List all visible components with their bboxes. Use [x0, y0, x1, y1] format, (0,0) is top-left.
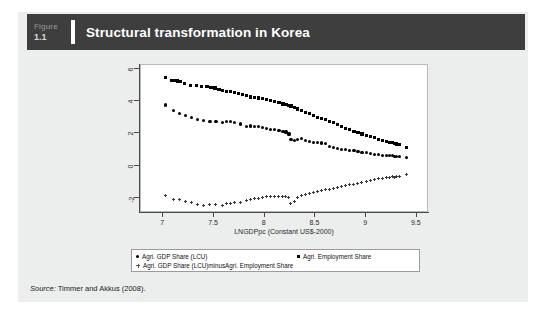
data-point	[348, 149, 351, 152]
x-tick-mark	[213, 213, 214, 217]
y-tick-label: -2	[128, 196, 135, 202]
figure-number: 1.1	[34, 32, 47, 43]
data-point	[356, 150, 359, 153]
data-point	[213, 86, 216, 89]
y-tick-label: 6	[128, 68, 135, 72]
data-point	[324, 118, 327, 121]
data-point	[195, 84, 198, 87]
plus-marker-icon	[136, 264, 140, 268]
data-point	[202, 119, 205, 122]
data-point	[381, 154, 384, 157]
data-point	[277, 129, 280, 132]
data-point	[261, 196, 264, 199]
legend-label: Agri. GDP Share (LCU)	[142, 253, 207, 260]
data-point	[332, 121, 335, 124]
data-point	[189, 84, 192, 87]
y-tick-mark	[134, 165, 139, 166]
data-point	[405, 146, 408, 149]
x-tick-mark	[264, 213, 265, 217]
data-point	[172, 198, 175, 201]
data-point	[373, 178, 376, 181]
data-point	[293, 200, 296, 203]
data-point	[164, 194, 167, 197]
data-point	[344, 148, 347, 151]
data-point	[249, 95, 252, 98]
data-point	[214, 120, 217, 123]
y-tick-mark	[134, 68, 139, 69]
data-point	[328, 145, 331, 148]
data-point	[324, 142, 327, 145]
chart-legend: Agri. GDP Share (LCU) Agri. Employment S…	[131, 249, 420, 272]
data-point	[405, 173, 408, 176]
data-point	[257, 96, 260, 99]
x-axis-line	[139, 212, 429, 213]
data-point	[208, 203, 211, 206]
data-point	[265, 127, 268, 130]
data-point	[398, 155, 401, 158]
data-point	[249, 124, 252, 127]
data-point	[369, 179, 372, 182]
x-tick-mark	[314, 213, 315, 217]
data-point	[340, 185, 343, 188]
data-point	[277, 101, 280, 104]
data-point	[196, 203, 199, 206]
source-value: Timmer and Akkus (2008).	[56, 284, 146, 293]
data-point	[348, 128, 351, 131]
data-point	[277, 195, 280, 198]
data-point	[352, 130, 355, 133]
data-point	[179, 80, 182, 83]
data-point	[265, 195, 268, 198]
data-point	[214, 203, 217, 206]
data-point	[308, 140, 311, 143]
data-point	[208, 120, 211, 123]
data-point	[164, 103, 167, 106]
y-axis-line	[139, 64, 140, 212]
source-caption: Source: Timmer and Akkus (2008).	[30, 284, 145, 293]
data-point	[245, 199, 248, 202]
data-point	[316, 116, 319, 119]
data-point	[184, 114, 187, 117]
data-point	[221, 89, 224, 92]
data-point	[229, 202, 232, 205]
plot-frame	[140, 64, 428, 212]
data-point	[344, 127, 347, 130]
data-point	[398, 143, 401, 146]
figure-header-bar: Figure 1.1 Structural transformation in …	[27, 14, 525, 50]
data-point	[360, 132, 363, 135]
data-point	[328, 188, 331, 191]
data-point	[253, 197, 256, 200]
data-point	[373, 136, 376, 139]
data-point	[269, 195, 272, 198]
data-point	[340, 125, 343, 128]
data-point	[308, 192, 311, 195]
data-point	[239, 201, 242, 204]
data-point	[300, 137, 303, 140]
data-point	[202, 204, 205, 207]
data-point	[352, 149, 355, 152]
data-point	[221, 204, 224, 207]
data-point	[225, 90, 228, 93]
data-point	[381, 177, 384, 180]
data-point	[273, 100, 276, 103]
x-tick-label: 9.5	[411, 219, 421, 226]
data-point	[324, 188, 327, 191]
data-point	[225, 120, 228, 123]
data-point	[365, 180, 368, 183]
data-point	[320, 117, 323, 120]
data-point	[377, 153, 380, 156]
data-point	[308, 112, 311, 115]
legend-label: Agri. Employment Share	[303, 253, 371, 260]
data-point	[209, 86, 212, 89]
data-point	[196, 118, 199, 121]
data-point	[200, 85, 203, 88]
data-point	[164, 76, 167, 79]
data-point	[245, 94, 248, 97]
data-point	[261, 126, 264, 129]
x-axis-title: LNGDPpc (Constant US$-2000)	[140, 228, 428, 235]
data-point	[398, 175, 401, 178]
data-point	[320, 189, 323, 192]
data-point	[287, 132, 290, 135]
y-tick-mark	[134, 100, 139, 101]
data-point	[312, 191, 315, 194]
y-tick-label: 2	[128, 132, 135, 136]
